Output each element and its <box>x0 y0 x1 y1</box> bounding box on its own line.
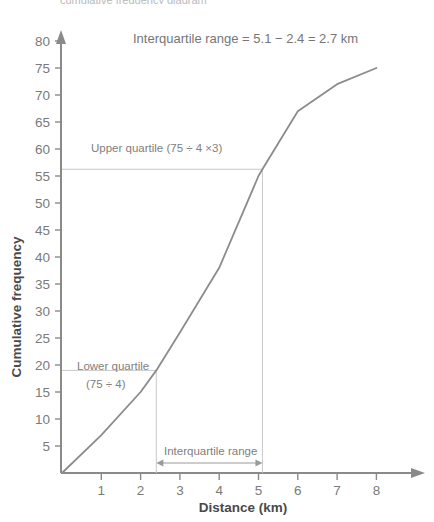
y-tick-label: 70 <box>35 88 50 103</box>
x-axis-title: Distance (km) <box>199 500 288 515</box>
y-tick-label: 30 <box>35 304 50 319</box>
y-axis-title: Cumulative frequency <box>9 236 24 378</box>
cumulative-frequency-chart: cumulative frequency diagram 51015202530… <box>0 0 434 522</box>
y-tick-label-group: 5101520253035404550556065707580 <box>35 34 50 454</box>
y-tick-label: 20 <box>35 358 50 373</box>
clipped-header-text: cumulative frequency diagram <box>60 0 390 4</box>
x-tick-label: 3 <box>176 483 184 498</box>
iqr-arrow-head-left <box>156 460 163 467</box>
y-axis-arrow <box>56 30 66 44</box>
iqr-bracket-label: Interquartile range <box>164 445 257 457</box>
x-axis-arrow <box>411 468 425 478</box>
quartile-guides <box>62 169 262 473</box>
y-tick-label: 50 <box>35 196 50 211</box>
y-tick-label: 40 <box>35 250 50 265</box>
y-tick-label: 45 <box>35 223 50 238</box>
y-tick-label: 65 <box>35 115 50 130</box>
x-tick-label: 7 <box>333 483 341 498</box>
y-tick-label: 10 <box>35 412 50 427</box>
chart-canvas: 5101520253035404550556065707580 12345678… <box>0 0 434 522</box>
x-tick-label: 6 <box>294 483 302 498</box>
x-tick-label: 2 <box>137 483 145 498</box>
y-tick-label: 15 <box>35 385 50 400</box>
y-axis: 5101520253035404550556065707580 <box>35 30 66 473</box>
x-tick-label: 4 <box>215 483 223 498</box>
y-tick-label: 5 <box>42 439 50 454</box>
y-tick-label: 35 <box>35 277 50 292</box>
y-tick-label: 60 <box>35 142 50 157</box>
y-tick-label: 55 <box>35 169 50 184</box>
x-tick-label: 8 <box>373 483 381 498</box>
iqr-arrow <box>156 460 262 467</box>
y-tick-label: 75 <box>35 61 50 76</box>
y-tick-label: 80 <box>35 34 50 49</box>
cumulative-frequency-curve <box>62 68 376 473</box>
x-tick-group <box>101 473 376 480</box>
interquartile-equation: Interquartile range = 5.1 − 2.4 = 2.7 km <box>133 31 358 46</box>
x-axis: 12345678 <box>61 468 425 498</box>
upper-quartile-label: Upper quartile (75 ÷ 4 ×3) <box>91 142 222 154</box>
x-tick-label: 1 <box>98 483 106 498</box>
x-tick-label-group: 12345678 <box>98 483 381 498</box>
lower-quartile-label-line2: (75 ÷ 4) <box>86 378 126 390</box>
lower-quartile-label-line1: Lower quartile <box>77 360 149 372</box>
iqr-arrow-head-right <box>255 460 262 467</box>
x-tick-label: 5 <box>255 483 263 498</box>
y-tick-label: 25 <box>35 331 50 346</box>
